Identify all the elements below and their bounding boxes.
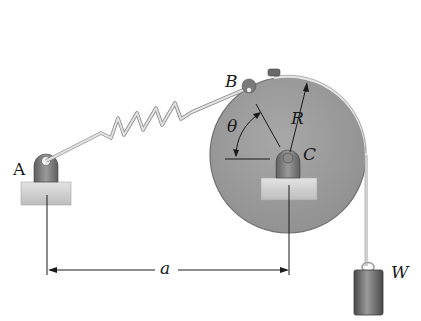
cable [365,155,367,266]
diagram-canvas [0,0,421,321]
label-B: B [225,73,238,90]
support-A [21,154,71,275]
label-R: R [291,110,304,127]
label-A: A [13,161,25,178]
mechanics-diagram: A B C R θ W a [0,0,421,321]
label-W: W [391,264,408,281]
weight-block [354,263,383,316]
pin-B [242,79,256,93]
label-a: a [160,260,170,277]
label-theta: θ [227,118,237,135]
label-C: C [303,146,316,163]
